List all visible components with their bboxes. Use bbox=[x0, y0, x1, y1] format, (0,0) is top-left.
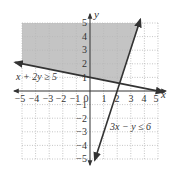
svg-text:3: 3 bbox=[129, 93, 134, 104]
svg-text:−2: −2 bbox=[76, 113, 87, 124]
svg-text:−3: −3 bbox=[43, 93, 54, 104]
svg-text:1: 1 bbox=[82, 72, 87, 83]
svg-text:2: 2 bbox=[82, 58, 87, 69]
svg-text:−4: −4 bbox=[29, 93, 40, 104]
svg-text:−1: −1 bbox=[76, 99, 87, 110]
svg-text:−5: −5 bbox=[15, 93, 26, 104]
inequality-label-1: x + 2y ≥ 5 bbox=[15, 71, 57, 82]
svg-text:3: 3 bbox=[82, 44, 87, 55]
x-axis-label: x bbox=[160, 88, 166, 100]
svg-text:5: 5 bbox=[154, 93, 159, 104]
svg-text:−2: −2 bbox=[56, 93, 67, 104]
svg-text:−3: −3 bbox=[76, 126, 87, 137]
svg-text:5: 5 bbox=[82, 17, 87, 28]
svg-text:4: 4 bbox=[142, 93, 147, 104]
svg-text:2: 2 bbox=[115, 93, 120, 104]
svg-text:−4: −4 bbox=[76, 140, 87, 151]
svg-text:−5: −5 bbox=[76, 153, 87, 164]
inequality-label-2: 3x − y ≤ 6 bbox=[109, 121, 151, 132]
svg-text:1: 1 bbox=[102, 93, 107, 104]
svg-text:4: 4 bbox=[82, 31, 87, 42]
y-axis-label: y bbox=[93, 8, 99, 20]
inequality-graph: y x −5 −4 −3 −2 −1 0 1 2 3 4 5 5 4 3 2 1… bbox=[0, 0, 176, 175]
